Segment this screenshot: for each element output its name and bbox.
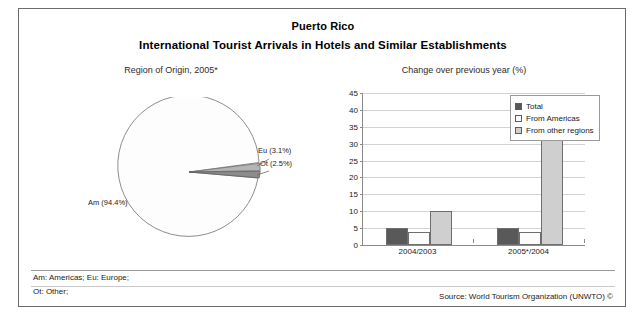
y-axis-tick-mark — [360, 194, 363, 195]
y-axis-tick-mark — [360, 93, 363, 94]
y-axis-tick-mark — [360, 177, 363, 178]
y-axis-tick-mark — [360, 110, 363, 111]
legend-label-from-americas: From Americas — [526, 114, 580, 123]
bar — [386, 228, 408, 245]
y-axis-tick-label: 30 — [328, 139, 358, 148]
y-axis-tick-label: 35 — [328, 122, 358, 131]
y-axis-tick-label: 25 — [328, 156, 358, 165]
pie-label-eu: Eu (3.1%) — [258, 146, 291, 155]
legend-swatch-total-icon — [515, 103, 522, 110]
pie-label-ot: Ot (2.5%) — [260, 159, 292, 168]
y-axis-tick-label: 0 — [328, 241, 358, 250]
footnote-abbreviations-line-2: Ot: Other; — [33, 287, 68, 296]
pie-chart-svg — [89, 97, 289, 257]
legend-swatch-from-americas-icon — [515, 115, 522, 122]
bar — [519, 232, 541, 246]
figure-frame: Puerto Rico International Tourist Arriva… — [18, 8, 626, 307]
page-subtitle: International Tourist Arrivals in Hotels… — [19, 39, 627, 51]
legend-label-from-other-regions: From other regions — [526, 126, 594, 135]
x-axis-tick-label: 2005*/2004 — [489, 247, 569, 256]
gridline — [363, 93, 585, 94]
pie-chart: Eu (3.1%) Ot (2.5%) Am (94.4%) — [89, 97, 289, 257]
y-axis-tick-label: 15 — [328, 190, 358, 199]
y-axis-tick-label: 10 — [328, 207, 358, 216]
legend-swatch-from-other-regions-icon — [515, 127, 522, 134]
y-axis-tick-label: 45 — [328, 89, 358, 98]
y-axis-tick-label: 5 — [328, 224, 358, 233]
y-axis-tick-label: 20 — [328, 173, 358, 182]
y-axis-tick-mark — [360, 245, 363, 246]
page-title: Puerto Rico — [19, 20, 627, 32]
footnote-abbreviations-line-1: Am: Americas; Eu: Europe; — [33, 273, 129, 282]
source-note: Source: World Tourism Organization (UNWT… — [439, 292, 613, 301]
footer-divider-secondary — [31, 286, 615, 287]
y-axis-tick-mark — [360, 211, 363, 212]
y-axis-tick-mark — [360, 144, 363, 145]
pie-label-am: Am (94.4%) — [88, 198, 128, 207]
bar — [497, 228, 519, 245]
bar — [408, 232, 430, 246]
pie-chart-caption: Region of Origin, 2005* — [31, 65, 311, 75]
legend-label-total: Total — [526, 102, 543, 111]
footer-divider — [31, 270, 615, 271]
chart-legend: Total From Americas From other regions — [510, 95, 600, 141]
x-axis-tick-mark — [362, 239, 363, 243]
x-axis-tick-label: 2004/2003 — [378, 247, 458, 256]
legend-item-from-other-regions: From other regions — [515, 124, 594, 136]
y-axis-tick-mark — [360, 161, 363, 162]
bar-chart-caption: Change over previous year (%) — [319, 65, 609, 75]
legend-item-from-americas: From Americas — [515, 112, 594, 124]
legend-item-total: Total — [515, 100, 594, 112]
bar-chart: 051015202530354045 2004/20032005*/2004 T… — [324, 87, 609, 267]
y-axis-tick-label: 40 — [328, 105, 358, 114]
x-axis-tick-mark — [473, 239, 474, 243]
figure-page: Puerto Rico International Tourist Arriva… — [0, 0, 643, 317]
y-axis-tick-mark — [360, 228, 363, 229]
bar — [430, 211, 452, 245]
y-axis-tick-mark — [360, 127, 363, 128]
x-axis-tick-mark — [584, 239, 585, 243]
